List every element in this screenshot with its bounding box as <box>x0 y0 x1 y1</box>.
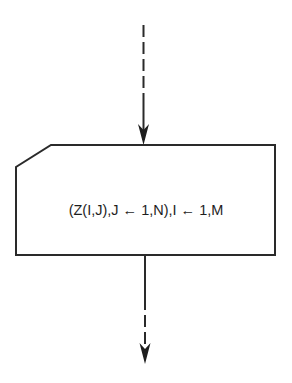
card-block <box>16 145 275 255</box>
outgoing-arrowhead-icon <box>140 343 151 364</box>
outgoing-flow-arrow <box>140 256 151 364</box>
flowchart-diagram: (Z(I,J),J ← 1,N),I ← 1,M <box>0 0 292 383</box>
block-statement: (Z(I,J),J ← 1,N),I ← 1,M <box>69 202 224 218</box>
incoming-flow-arrow <box>138 25 149 145</box>
